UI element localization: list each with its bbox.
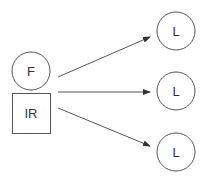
node-ir-label: IR <box>25 106 38 121</box>
node-f: F <box>12 52 50 90</box>
diagram-svg: F IR L L L <box>0 0 206 179</box>
node-l-middle-label: L <box>172 84 179 99</box>
node-ir: IR <box>13 94 51 134</box>
node-l-top-label: L <box>172 24 179 39</box>
node-l-top: L <box>157 12 195 50</box>
node-l-bottom-label: L <box>172 145 179 160</box>
arrow-to-l-bottom <box>58 108 150 146</box>
node-l-middle: L <box>157 72 195 110</box>
arrow-to-l-top <box>58 37 150 77</box>
node-l-bottom: L <box>157 133 195 171</box>
diagram-canvas: F IR L L L <box>0 0 206 179</box>
node-f-label: F <box>27 64 35 79</box>
